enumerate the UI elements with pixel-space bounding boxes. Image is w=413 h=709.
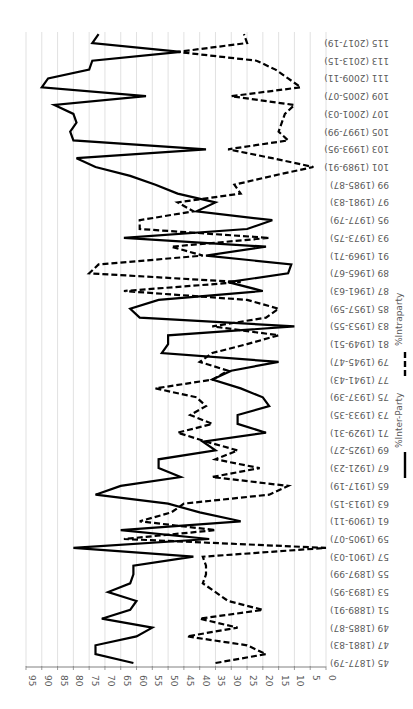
category-label: 77 (1941-43) (330, 375, 389, 385)
value-tick-label: 60 (138, 675, 148, 687)
category-label: 65 (1917-19) (330, 481, 389, 491)
intraparty-line (89, 34, 326, 663)
value-tick-label: 40 (201, 675, 211, 687)
category-label: 67 (1921-23) (330, 463, 389, 473)
category-label: 79 (1945-47) (330, 357, 389, 367)
legend: %Inter-Party%Intraparty (394, 292, 405, 478)
rotated-line-chart: 05101520253035404550556065707580859095 4… (0, 0, 413, 709)
category-label: 55 (1897-99) (330, 569, 389, 579)
value-tick-label: 50 (169, 675, 179, 687)
category-label: 81 (1949-51) (330, 339, 389, 349)
value-tick-label: 55 (153, 675, 163, 686)
value-tick-label: 75 (90, 675, 100, 686)
category-label: 83 (1953-55) (330, 321, 389, 331)
value-tick-label: 25 (248, 675, 258, 686)
category-label: 71 (1929-31) (330, 428, 389, 438)
category-label: 93 (1973-75) (330, 233, 389, 243)
value-tick-label: 80 (74, 675, 84, 687)
value-tick-label: 30 (232, 675, 242, 687)
category-label: 107 (2001-03) (324, 109, 389, 119)
category-axis-labels: 45 (1877-79)47 (1881-83)49 (1885-87)51 (… (324, 38, 389, 668)
value-tick-label: 65 (122, 675, 132, 686)
category-label: 61 (1909-11) (330, 516, 389, 526)
category-label: 105 (1997-99) (324, 127, 389, 137)
category-label: 85 (1957-59) (330, 304, 389, 314)
category-label: 101 (1989-91) (324, 162, 389, 172)
value-tick-label: 20 (264, 675, 274, 687)
legend-label-inter-party: %Inter-Party (394, 392, 404, 448)
category-label: 63 (1913-15) (330, 499, 389, 509)
category-label: 91 (1969-71) (330, 251, 389, 261)
value-tick-label: 70 (106, 675, 116, 687)
category-label: 69 (1925-27) (330, 445, 389, 455)
category-label: 95 (1977-79) (330, 215, 389, 225)
category-label: 49 (1885-87) (330, 623, 389, 633)
category-label: 99 (1985-87) (330, 180, 389, 190)
category-label: 75 (1937-39) (330, 392, 389, 402)
category-label: 103 (1993-95) (324, 144, 389, 154)
value-axis: 05101520253035404550556065707580859095 (26, 32, 337, 687)
value-tick-label: 95 (27, 675, 37, 686)
category-label: 73 (1933-35) (330, 410, 389, 420)
category-label: 111 (2009-11) (324, 73, 389, 83)
category-label: 51 (1889-91) (330, 605, 389, 615)
value-tick-label: 45 (185, 675, 195, 686)
category-label: 109 (2005-07) (324, 91, 389, 101)
category-label: 57 (1901-03) (330, 552, 389, 562)
value-tick-label: 90 (43, 675, 53, 687)
category-label: 115 (2017-19) (324, 38, 389, 48)
category-label: 97 (1981-83) (330, 197, 389, 207)
category-label: 53 (1893-95) (330, 587, 389, 597)
category-label: 113 (2013-15) (324, 56, 389, 66)
value-tick-label: 15 (280, 675, 290, 686)
legend-label-intraparty: %Intraparty (394, 292, 404, 346)
gridlines (26, 32, 310, 667)
value-tick-label: 35 (216, 675, 226, 686)
category-label: 87 (1961-63) (330, 286, 389, 296)
category-label: 47 (1881-83) (330, 640, 389, 650)
category-label: 89 (1965-67) (330, 268, 389, 278)
value-tick-label: 5 (311, 675, 321, 681)
value-tick-label: 10 (295, 675, 305, 687)
value-tick-label: 0 (327, 675, 337, 681)
category-label: 59 (1905-07) (330, 534, 389, 544)
value-tick-label: 85 (59, 675, 69, 686)
category-label: 45 (1877-79) (330, 658, 389, 668)
